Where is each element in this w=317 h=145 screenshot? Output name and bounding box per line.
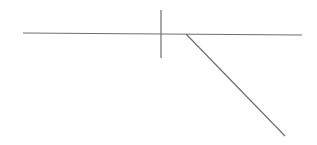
diagonal-line [186,34,285,136]
horizontal-line [23,33,302,35]
line-diagram [0,0,317,145]
